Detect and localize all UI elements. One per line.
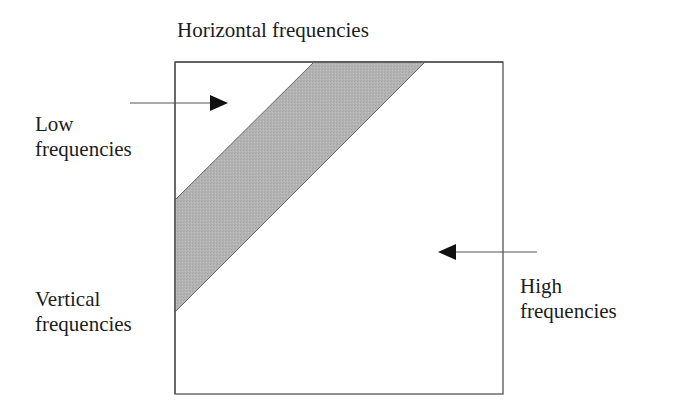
low-label-line2: frequencies (35, 137, 132, 162)
frequency-diagram (0, 0, 673, 416)
low-frequencies-label: Low frequencies (35, 112, 132, 162)
horizontal-frequencies-title: Horizontal frequencies (177, 18, 369, 43)
high-label-line1: High (520, 274, 617, 299)
vertical-label-line1: Vertical (35, 287, 132, 312)
vertical-frequencies-label: Vertical frequencies (35, 287, 132, 337)
high-frequencies-label: High frequencies (520, 274, 617, 324)
vertical-label-line2: frequencies (35, 312, 132, 337)
high-label-line2: frequencies (520, 299, 617, 324)
low-label-line1: Low (35, 112, 132, 137)
